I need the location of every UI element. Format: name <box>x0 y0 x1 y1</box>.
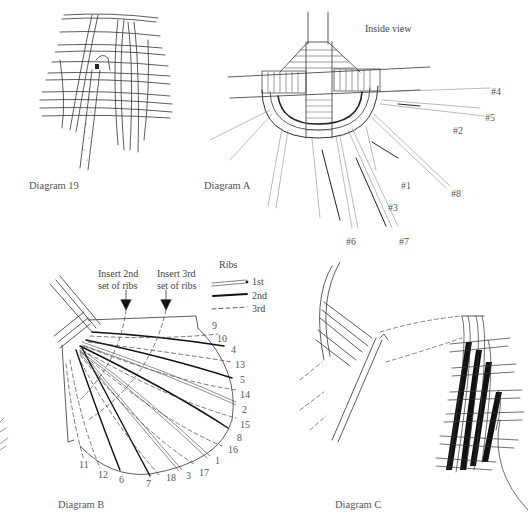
diagram-a-drawing <box>210 12 490 228</box>
ribs-legend-3rd: 3rd <box>252 303 265 314</box>
rib-number: 14 <box>240 389 250 400</box>
rib-number: 5 <box>240 374 245 385</box>
diagram-c-caption: Diagram C <box>335 499 381 510</box>
rib-number: 8 <box>237 432 242 443</box>
rib-number: 16 <box>228 444 238 455</box>
rib-number: 13 <box>235 359 245 370</box>
rib-number: 1 <box>215 455 220 466</box>
rib-number: 15 <box>240 419 250 430</box>
insert-2nd-label-line2: set of ribs <box>98 280 137 291</box>
diagram-19-caption: Diagram 19 <box>29 180 79 191</box>
rib-number: 2 <box>242 404 247 415</box>
rib-number: 6 <box>119 474 124 485</box>
rib-number: 10 <box>217 333 227 344</box>
rib-number: 7 <box>146 478 151 489</box>
rib-number: 3 <box>186 470 191 481</box>
insert-3rd-label-line1: Insert 3rd <box>157 268 196 279</box>
rib-number: 18 <box>166 472 176 483</box>
rib-number: 12 <box>98 469 108 480</box>
diagram-c-drawing <box>300 262 528 510</box>
rib-label: #5 <box>485 112 495 123</box>
rib-label: #2 <box>453 125 463 136</box>
rib-label: #4 <box>491 86 501 97</box>
rib-label: #3 <box>388 202 398 213</box>
rib-number: 11 <box>79 459 89 470</box>
diagram-b-caption: Diagram B <box>58 499 104 510</box>
ribs-legend-1st: 1st <box>252 276 264 287</box>
rib-number: 9 <box>212 320 217 331</box>
ribs-legend-title: Ribs <box>219 259 237 270</box>
diagram-a-caption: Diagram A <box>204 180 250 191</box>
rib-number: 17 <box>199 467 209 478</box>
diagram-a-subtitle: Inside view <box>365 23 411 34</box>
insert-3rd-label-line2: set of ribs <box>157 280 196 291</box>
rib-label: #7 <box>399 236 409 247</box>
illustration-canvas <box>0 0 528 514</box>
ribs-legend-2nd: 2nd <box>252 290 267 301</box>
rib-number: 4 <box>231 344 236 355</box>
rib-label: #1 <box>401 180 411 191</box>
insert-2nd-label-line1: Insert 2nd <box>98 268 138 279</box>
rib-label: #6 <box>346 236 356 247</box>
diagram-19-drawing <box>40 14 172 170</box>
rib-label: #8 <box>451 188 461 199</box>
diagram-b-drawing <box>0 276 248 476</box>
